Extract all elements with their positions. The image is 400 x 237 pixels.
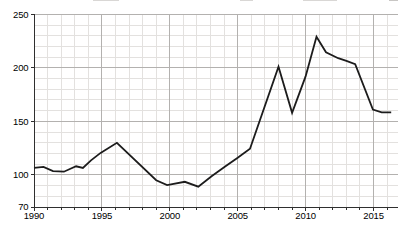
- clipped-title-remnant: [0, 0, 400, 3]
- x-tick-labels: 199019952000200520102015: [24, 210, 384, 221]
- x-tick-label: 2000: [160, 210, 181, 221]
- y-tick-label: 70: [18, 201, 28, 212]
- line-chart: 19901995200020052010201525020015010070: [0, 0, 400, 237]
- chart-canvas: 19901995200020052010201525020015010070: [0, 0, 400, 237]
- y-tick-labels: 25020015010070: [13, 9, 28, 213]
- x-tick-label: 2015: [363, 210, 384, 221]
- y-tick-label: 200: [13, 62, 28, 73]
- y-tick-label: 250: [13, 9, 28, 20]
- x-tick-label: 2010: [295, 210, 316, 221]
- axes: [31, 14, 399, 211]
- grid-minor: [34, 14, 398, 207]
- y-tick-label: 100: [13, 169, 28, 180]
- x-tick-label: 2005: [227, 210, 248, 221]
- x-tick-label: 1995: [92, 210, 113, 221]
- y-tick-label: 150: [13, 116, 28, 127]
